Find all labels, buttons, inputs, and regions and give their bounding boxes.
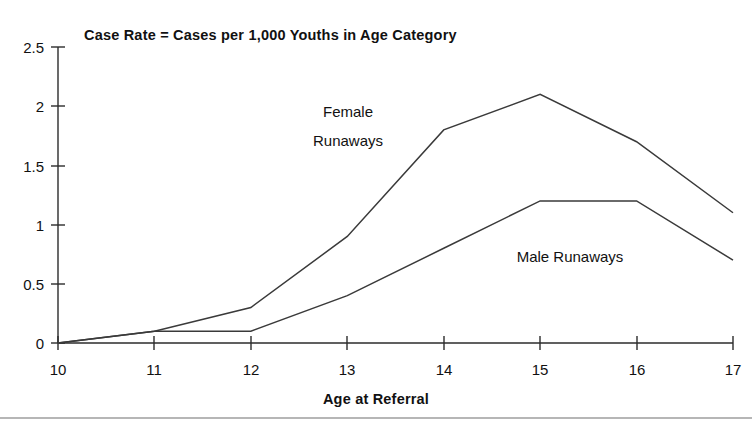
x-tick-label-10: 10 [50,361,67,378]
y-tick-label-2.5: 2.5 [23,39,44,56]
female-series-label-line1: Female [323,103,373,120]
y-tick-label-2: 2 [36,98,44,115]
y-tick-label-1.5: 1.5 [23,158,44,175]
chart-figure: Case Rate = Cases per 1,000 Youths in Ag… [0,0,752,430]
x-tick-label-11: 11 [146,361,162,378]
x-axis-title: Age at Referral [323,391,429,407]
series-line-female-runaways [58,94,733,343]
x-tick-label-15: 15 [532,361,549,378]
y-tick-label-0.5: 0.5 [23,276,44,293]
y-tick-label-0: 0 [36,335,44,352]
x-tick-label-12: 12 [243,361,260,378]
x-tick-label-17: 17 [725,361,742,378]
female-series-label-line2: Runaways [313,132,383,149]
x-tick-label-13: 13 [339,361,356,378]
x-tick-label-16: 16 [629,361,646,378]
line-chart: Case Rate = Cases per 1,000 Youths in Ag… [0,0,752,430]
series-line-male-runaways [58,201,733,343]
male-series-label: Male Runaways [517,248,624,265]
y-tick-label-1: 1 [36,217,44,234]
chart-title: Case Rate = Cases per 1,000 Youths in Ag… [84,27,457,43]
x-tick-label-14: 14 [436,361,453,378]
